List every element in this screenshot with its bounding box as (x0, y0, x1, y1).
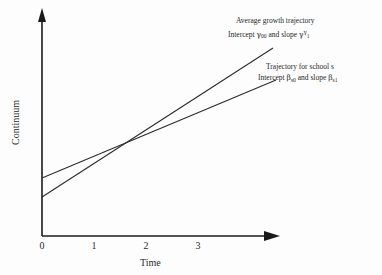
annotation-average-slope-text: and slope (267, 29, 299, 38)
x-tick-label-3: 3 (188, 240, 208, 251)
x-tick-label-0: 0 (32, 240, 52, 251)
y-axis-title: Continuum (10, 83, 21, 163)
annotation-school-line2: Intercept βs0 and slope βs1 (258, 73, 337, 85)
x-axis-arrowhead-icon (264, 231, 280, 241)
average-growth-trajectory-line (42, 48, 273, 197)
y-axis-arrowhead-icon (38, 8, 46, 22)
annotation-average-growth: Average growth trajectory Intercept γ00 … (228, 16, 315, 41)
beta-s1-subscript: s1 (333, 76, 338, 82)
annotation-average-line1: Average growth trajectory (228, 16, 315, 27)
annotation-average-intercept-text: Intercept (228, 29, 257, 38)
annotation-school-line1: Trajectory for school s (258, 62, 337, 73)
annotation-average-line2: Intercept γ00 and slope γγ1 (228, 27, 315, 42)
plot-canvas (0, 0, 382, 275)
x-tick-label-2: 2 (136, 240, 156, 251)
annotation-school-intercept-text: Intercept (258, 73, 287, 82)
x-tick-label-1: 1 (84, 240, 104, 251)
annotation-school-trajectory: Trajectory for school s Intercept βs0 an… (258, 62, 337, 85)
growth-trajectory-figure: 0 1 2 3 Time Continuum Average growth tr… (0, 0, 382, 275)
gamma-1-subscript: 1 (307, 33, 310, 39)
annotation-school-slope-text: and slope (296, 73, 328, 82)
x-axis-title: Time (140, 257, 161, 268)
school-trajectory-line (42, 80, 276, 178)
